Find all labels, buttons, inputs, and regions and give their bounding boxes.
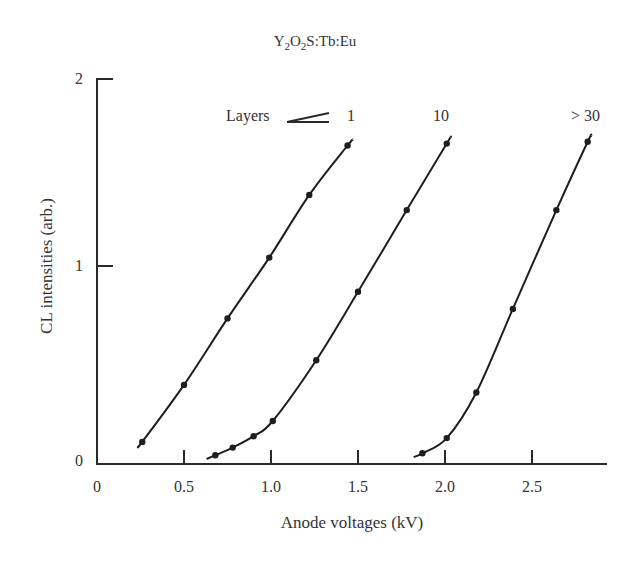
data-point: [404, 207, 410, 213]
axis-lines: [97, 79, 607, 464]
data-point: [313, 357, 319, 363]
x-tick-label: 1.5: [348, 478, 368, 495]
axes: 012 00.51.01.52.02.5: [75, 70, 607, 495]
x-axis-label: Anode voltages (kV): [281, 513, 424, 532]
data-point: [270, 418, 276, 424]
curve-line: [414, 135, 592, 458]
data-point: [355, 289, 361, 295]
curve-line: [207, 137, 451, 459]
x-tick-label: 2.0: [435, 478, 455, 495]
series-group: [138, 135, 592, 459]
y-tick-label: 0: [75, 452, 83, 469]
chart-title: Y2O2S:Tb:Eu: [274, 33, 357, 52]
data-point: [224, 315, 230, 321]
data-point: [510, 306, 516, 312]
data-point: [444, 140, 450, 146]
y-axis-label: CL intensities (arb.): [37, 198, 56, 334]
series-1: [138, 140, 353, 448]
data-point: [553, 207, 559, 213]
y-tick-label: 1: [75, 257, 83, 274]
data-point: [250, 433, 256, 439]
data-point: [584, 139, 590, 145]
data-point: [306, 192, 312, 198]
layers-pointer-icon: [287, 113, 329, 122]
chart: Y2O2S:Tb:Eu 012 00.51.01.52.02.5 Anode v…: [0, 0, 638, 561]
series-30: [414, 135, 592, 458]
data-point: [444, 435, 450, 441]
data-point: [473, 389, 479, 395]
data-point: [230, 444, 236, 450]
series-10: [207, 137, 451, 459]
data-point: [344, 142, 350, 148]
x-tick-label: 0.5: [174, 478, 194, 495]
curve-line: [138, 140, 353, 448]
data-point: [212, 452, 218, 458]
data-point: [419, 450, 425, 456]
x-tick-label: 2.5: [522, 478, 542, 495]
series-label-30: > 30: [571, 107, 600, 124]
layers-annotation: Layers: [226, 107, 329, 125]
data-point: [266, 254, 272, 260]
data-point: [139, 439, 145, 445]
y-tick-label: 2: [75, 70, 83, 87]
x-tick-label: 0: [93, 478, 101, 495]
series-label-10: 10: [433, 107, 449, 124]
x-ticks: 00.51.01.52.02.5: [93, 450, 542, 495]
series-label-1: 1: [347, 107, 355, 124]
data-point: [181, 382, 187, 388]
layers-label: Layers: [226, 107, 270, 125]
x-tick-label: 1.0: [261, 478, 281, 495]
y-ticks: 012: [75, 70, 113, 469]
